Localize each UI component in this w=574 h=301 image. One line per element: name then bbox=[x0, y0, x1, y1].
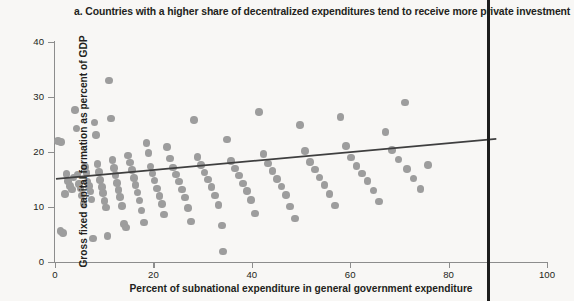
scatter-point bbox=[143, 139, 151, 147]
scatter-point bbox=[211, 192, 219, 200]
scatter-point bbox=[239, 180, 247, 188]
scatter-point bbox=[306, 158, 314, 166]
scatter-point bbox=[273, 175, 281, 183]
scatter-point bbox=[208, 183, 216, 191]
scatter-point bbox=[181, 194, 189, 202]
scatter-point bbox=[158, 200, 166, 208]
scatter-point bbox=[124, 152, 132, 160]
scatter-point bbox=[247, 196, 255, 204]
x-tick-mark bbox=[252, 263, 253, 268]
x-tick-label: 60 bbox=[330, 269, 370, 280]
x-tick-mark bbox=[547, 263, 548, 268]
scatter-point bbox=[175, 178, 183, 186]
scatter-point bbox=[102, 204, 110, 212]
scatter-point bbox=[296, 121, 304, 129]
scatter-point bbox=[166, 155, 174, 163]
scatter-point bbox=[375, 198, 383, 206]
scatter-point bbox=[395, 156, 403, 164]
scatter-point bbox=[410, 175, 418, 183]
x-axis-line bbox=[54, 262, 548, 263]
scatter-point bbox=[370, 187, 378, 195]
scatter-point bbox=[88, 196, 96, 204]
scatter-point bbox=[112, 171, 120, 179]
scatter-point bbox=[160, 211, 168, 219]
scatter-point bbox=[147, 163, 155, 171]
y-axis-title: Gross fixed capital formation as percent… bbox=[78, 32, 89, 272]
scatter-point bbox=[215, 201, 223, 209]
plot-area: Gross fixed capital formation as percent… bbox=[55, 42, 547, 262]
y-tick-mark bbox=[48, 42, 54, 43]
scatter-point bbox=[184, 204, 192, 212]
scatter-point bbox=[136, 197, 144, 205]
scatter-point bbox=[89, 235, 97, 243]
y-tick-mark bbox=[48, 262, 54, 263]
scatter-point bbox=[278, 183, 286, 191]
y-tick-label: 30 bbox=[0, 91, 44, 102]
scatter-point bbox=[342, 142, 350, 150]
scatter-point bbox=[337, 113, 345, 121]
scatter-point bbox=[94, 160, 102, 168]
scatter-point bbox=[218, 222, 226, 230]
x-tick-label: 80 bbox=[429, 269, 469, 280]
scatter-point bbox=[105, 77, 113, 85]
chart-figure: a. Countries with a higher share of dece… bbox=[0, 0, 574, 301]
scatter-point bbox=[364, 177, 372, 185]
scatter-point bbox=[107, 115, 115, 123]
scatter-point bbox=[151, 177, 159, 185]
scatter-point bbox=[269, 167, 277, 175]
scatter-point bbox=[59, 229, 67, 237]
scatter-point bbox=[57, 138, 65, 146]
scatter-point bbox=[388, 146, 396, 154]
scatter-point bbox=[417, 185, 425, 193]
scatter-point bbox=[91, 119, 99, 127]
scatter-point bbox=[227, 157, 235, 165]
scatter-point bbox=[156, 192, 164, 200]
scatter-point bbox=[219, 248, 227, 256]
scatter-point bbox=[109, 156, 117, 164]
chart-title: a. Countries with a higher share of dece… bbox=[74, 6, 544, 17]
x-tick-mark bbox=[350, 263, 351, 268]
y-tick-label: 40 bbox=[0, 36, 44, 47]
scatter-point bbox=[153, 185, 161, 193]
y-tick-mark bbox=[48, 207, 54, 208]
scatter-point bbox=[235, 172, 243, 180]
scatter-point bbox=[311, 166, 319, 174]
x-tick-mark bbox=[449, 263, 450, 268]
scatter-point bbox=[424, 161, 432, 169]
scatter-point bbox=[301, 147, 309, 155]
scatter-point bbox=[316, 174, 324, 182]
scatter-point bbox=[347, 154, 355, 162]
y-tick-mark bbox=[48, 152, 54, 153]
scatter-point bbox=[163, 143, 171, 151]
scatter-point bbox=[264, 160, 272, 168]
scatter-point bbox=[321, 181, 329, 189]
scatter-point bbox=[122, 224, 130, 232]
scatter-point bbox=[140, 219, 148, 227]
scatter-point bbox=[134, 189, 142, 197]
y-tick-label: 20 bbox=[0, 146, 44, 157]
scatter-point bbox=[187, 218, 195, 226]
scatter-point bbox=[145, 149, 153, 157]
scatter-point bbox=[194, 153, 202, 161]
x-tick-label: 100 bbox=[527, 269, 567, 280]
x-tick-mark bbox=[55, 263, 56, 268]
scatter-point bbox=[382, 128, 390, 136]
scatter-point bbox=[95, 168, 103, 176]
scatter-point bbox=[92, 131, 100, 139]
x-tick-label: 0 bbox=[35, 269, 75, 280]
scatter-point bbox=[255, 108, 263, 116]
scatter-point bbox=[128, 166, 136, 174]
scatter-point bbox=[68, 186, 76, 194]
scatter-point bbox=[99, 189, 107, 197]
scatter-point bbox=[204, 176, 212, 184]
scatter-point bbox=[331, 202, 339, 210]
scatter-point bbox=[138, 207, 146, 215]
scatter-point bbox=[178, 186, 186, 194]
scatter-point bbox=[223, 136, 231, 144]
x-tick-label: 20 bbox=[133, 269, 173, 280]
page-edge-artifact bbox=[487, 0, 490, 301]
scatter-point bbox=[132, 181, 140, 189]
x-axis-title: Percent of subnational expenditure in ge… bbox=[54, 283, 548, 294]
y-tick-label: 0 bbox=[0, 256, 44, 267]
scatter-point bbox=[403, 165, 411, 173]
